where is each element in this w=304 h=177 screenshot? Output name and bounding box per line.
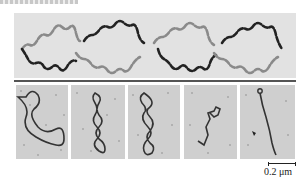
clipped-caption-fragment xyxy=(0,0,78,4)
micrograph-2 xyxy=(71,85,125,159)
supercoiled-dna-image xyxy=(71,85,125,159)
micrograph-1 xyxy=(16,85,68,159)
scale-bar-label: 0.2 μm xyxy=(264,166,292,177)
micrograph-4 xyxy=(184,85,237,159)
micrograph-3 xyxy=(128,85,180,159)
dna-loop-diagram xyxy=(14,13,296,78)
highly-supercoiled-dna-image xyxy=(240,85,295,159)
relaxed-dna-image xyxy=(16,85,68,159)
divider-line xyxy=(14,80,296,82)
dna-loops-illustration xyxy=(14,13,296,78)
micrograph-5 xyxy=(240,85,295,159)
compact-supercoiled-dna-image xyxy=(184,85,237,159)
supercoiled-dna-image xyxy=(128,85,180,159)
